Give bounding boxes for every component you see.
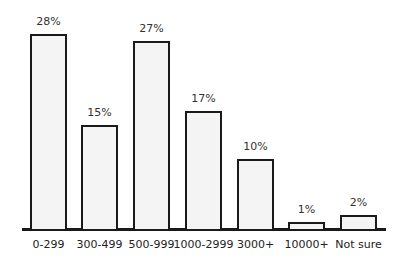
bar-0-299 (30, 34, 67, 229)
value-label-10000-plus: 1% (282, 203, 332, 216)
bar-500-999 (133, 41, 170, 229)
value-label-500-999: 27% (127, 22, 177, 35)
bar-1000-2999 (185, 111, 222, 229)
value-label-300-499: 15% (75, 106, 125, 119)
bar-300-499 (81, 125, 118, 229)
value-label-not-sure: 2% (334, 196, 384, 209)
bar-3000-plus (237, 159, 274, 229)
bar-10000-plus (288, 222, 325, 229)
value-label-3000-plus: 10% (231, 140, 281, 153)
value-label-0-299: 28% (24, 15, 74, 28)
bar-not-sure (340, 215, 377, 229)
bar-chart: 28% 0-299 15% 300-499 27% 500-999 17% 10… (0, 0, 405, 268)
category-label-not-sure: Not sure (324, 238, 394, 251)
value-label-1000-2999: 17% (179, 92, 229, 105)
